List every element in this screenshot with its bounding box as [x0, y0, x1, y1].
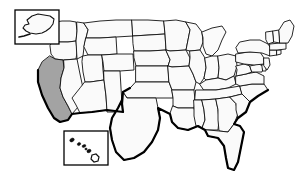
state-rhode-island[interactable] [277, 50, 281, 55]
state-colorado[interactable] [102, 54, 134, 71]
state-minnesota[interactable] [164, 20, 190, 51]
hawaii-inset[interactable] [64, 131, 108, 165]
hawaii-island-hawaii-big-island[interactable] [91, 154, 99, 162]
state-south-dakota[interactable] [133, 34, 166, 51]
us-map-figure [0, 0, 300, 179]
state-kansas[interactable] [136, 66, 169, 82]
state-connecticut[interactable] [270, 50, 277, 56]
state-montana[interactable] [84, 20, 133, 38]
alaska-inset[interactable] [15, 10, 59, 44]
state-pennsylvania[interactable] [236, 52, 264, 65]
state-iowa[interactable] [166, 50, 190, 67]
state-wyoming[interactable] [84, 37, 117, 55]
state-nebraska[interactable] [134, 50, 170, 66]
state-massachusetts[interactable] [270, 43, 286, 50]
state-indiana[interactable] [204, 56, 219, 80]
us-map-svg [0, 0, 300, 179]
hawaii-island-lanai[interactable] [85, 148, 87, 150]
state-north-dakota[interactable] [132, 20, 165, 36]
state-utah[interactable] [82, 55, 104, 82]
state-arkansas[interactable] [172, 90, 195, 108]
